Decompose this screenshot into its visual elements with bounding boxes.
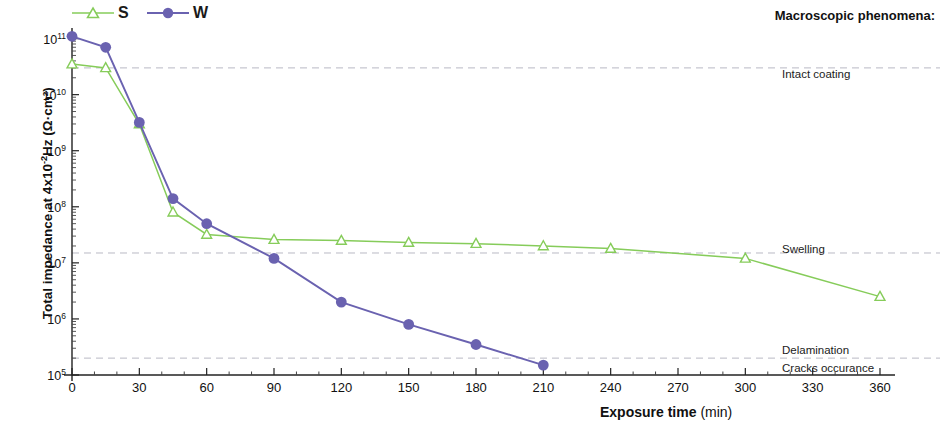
y-tick-label: 107 — [22, 255, 66, 271]
data-point-w — [269, 253, 280, 264]
y-tick-label: 1010 — [22, 87, 66, 103]
phenomena-note: Intact coating — [782, 68, 850, 80]
data-point-w — [336, 297, 347, 308]
data-point-w — [471, 339, 482, 350]
x-tick-label: 90 — [267, 380, 281, 395]
x-tick-label: 270 — [667, 380, 689, 395]
x-tick-label: 330 — [802, 380, 824, 395]
phenomena-note: Delamination — [782, 344, 849, 356]
data-point-w — [403, 319, 414, 330]
x-tick-label: 360 — [869, 380, 891, 395]
data-point-w — [538, 360, 549, 371]
x-tick-label: 60 — [199, 380, 213, 395]
data-point-w — [201, 218, 212, 229]
data-point-s — [67, 59, 77, 68]
axes-group — [64, 28, 895, 381]
x-tick-label: 0 — [68, 380, 75, 395]
x-tick-label: 300 — [734, 380, 756, 395]
series-group — [67, 31, 885, 371]
y-tick-label: 108 — [22, 199, 66, 215]
x-tick-label: 180 — [465, 380, 487, 395]
chart-figure: S W Total impedance at 4x10-2Hz (Ω·cm²) … — [0, 0, 945, 432]
data-point-w — [67, 31, 78, 42]
data-point-s — [168, 207, 178, 216]
series-line-s — [72, 64, 880, 297]
x-tick-label: 240 — [600, 380, 622, 395]
y-tick-label: 109 — [22, 143, 66, 159]
phenomena-note: Cracks occurance — [782, 362, 874, 374]
phenomena-note: Swelling — [782, 243, 825, 255]
data-point-w — [168, 193, 179, 204]
data-point-w — [100, 42, 111, 53]
series-line-w — [72, 36, 543, 365]
reference-lines-group — [72, 68, 940, 358]
x-tick-label: 150 — [398, 380, 420, 395]
y-tick-label: 106 — [22, 311, 66, 327]
data-point-s — [202, 229, 212, 238]
y-tick-label: 105 — [22, 367, 66, 383]
y-tick-label: 1011 — [22, 31, 66, 47]
x-tick-label: 30 — [132, 380, 146, 395]
x-tick-label: 120 — [330, 380, 352, 395]
x-tick-label: 210 — [532, 380, 554, 395]
data-point-w — [134, 117, 145, 128]
